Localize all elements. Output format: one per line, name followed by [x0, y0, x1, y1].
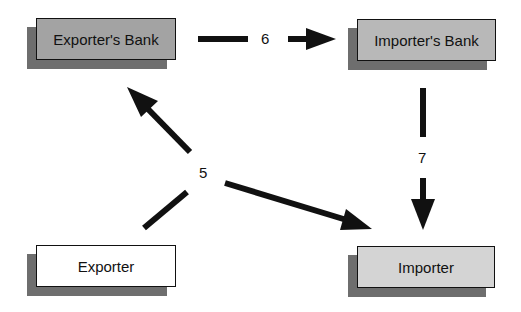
arrow-step-5-to-importer [225, 183, 372, 230]
step-label-5: 5 [199, 164, 207, 181]
step-label-7: 7 [418, 149, 426, 166]
line-step-5-from-exporter [144, 192, 187, 228]
arrow-step-5-to-exporters-bank [127, 87, 190, 152]
step-label-6: 6 [261, 30, 269, 47]
